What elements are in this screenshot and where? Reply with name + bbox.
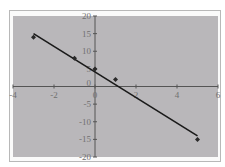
y-tick-label: -5 [84, 99, 92, 109]
y-tick-label: 15 [82, 29, 92, 39]
y-tick-label: -20 [79, 152, 91, 162]
y-tick-label: -10 [79, 117, 91, 127]
x-tick-label: 0 [93, 90, 98, 100]
x-tick-label: 6 [216, 90, 221, 100]
x-tick-label: -4 [9, 90, 17, 100]
y-tick-label: -15 [79, 134, 91, 144]
x-tick-label: 4 [175, 90, 180, 100]
y-tick-label: 0 [87, 78, 92, 88]
y-tick-label: 10 [82, 46, 92, 56]
scatter-chart: -4-20246-20-15-10-505101520 [0, 0, 225, 167]
x-tick-label: -2 [50, 90, 58, 100]
y-tick-label: 20 [82, 11, 92, 21]
